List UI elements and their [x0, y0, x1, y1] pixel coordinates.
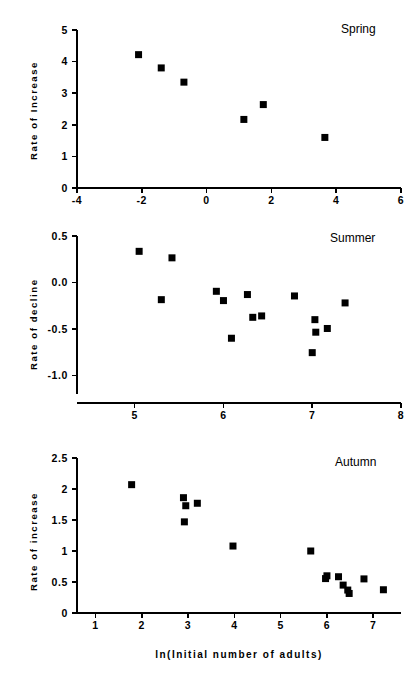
data-point	[309, 349, 316, 356]
svg-text:6: 6	[398, 194, 404, 206]
svg-text:0.5: 0.5	[52, 576, 68, 588]
svg-text:5: 5	[62, 24, 68, 36]
summer-x-ticks: 5678	[131, 403, 404, 421]
data-point	[180, 494, 187, 501]
data-point	[360, 575, 367, 582]
data-point	[311, 316, 318, 323]
svg-text:2: 2	[62, 119, 68, 131]
data-point	[229, 543, 236, 550]
spring-data-points	[135, 51, 328, 141]
data-point	[249, 314, 256, 321]
panel-summer: -1.0-0.50.00.5 5678 Rate of decline Summ…	[0, 218, 415, 433]
data-point	[228, 335, 235, 342]
spring-panel-label: Spring	[341, 22, 376, 36]
spring-axes	[77, 30, 401, 188]
svg-text:1.5: 1.5	[52, 514, 68, 526]
summer-y-axis-title: Rate of decline	[28, 278, 39, 370]
data-point	[182, 502, 189, 509]
data-point	[312, 329, 319, 336]
autumn-y-ticks: 00.511.522.5	[52, 452, 77, 619]
data-point	[335, 573, 342, 580]
spring-y-ticks: 012345	[62, 24, 77, 194]
svg-text:6: 6	[324, 619, 330, 631]
data-point	[168, 254, 175, 261]
panel-autumn: 00.511.522.5 1234567 Rate of increase Au…	[0, 433, 415, 673]
data-point	[180, 79, 187, 86]
svg-text:4: 4	[231, 619, 237, 631]
autumn-y-axis-title: Rate of increase	[28, 492, 39, 591]
svg-text:2: 2	[139, 619, 145, 631]
svg-text:4: 4	[62, 55, 68, 67]
x-axis-title: ln(Initial number of adults)	[77, 649, 401, 660]
svg-text:8: 8	[398, 409, 404, 421]
autumn-axes	[77, 458, 401, 613]
data-point	[258, 312, 265, 319]
data-point	[380, 586, 387, 593]
data-point	[321, 134, 328, 141]
autumn-plot-area: 00.511.522.5 1234567	[0, 433, 415, 673]
svg-text:0: 0	[62, 182, 68, 194]
autumn-panel-label: Autumn	[335, 455, 376, 469]
data-point	[135, 51, 142, 58]
svg-text:-4: -4	[72, 194, 83, 206]
svg-text:0.5: 0.5	[52, 230, 68, 242]
data-point	[194, 500, 201, 507]
svg-text:0: 0	[203, 194, 209, 206]
data-point	[181, 518, 188, 525]
svg-text:5: 5	[131, 409, 137, 421]
data-point	[240, 116, 247, 123]
svg-text:6: 6	[220, 409, 226, 421]
summer-y-ticks: -1.0-0.50.00.5	[48, 230, 78, 381]
svg-text:1: 1	[62, 150, 68, 162]
data-point	[342, 299, 349, 306]
svg-text:7: 7	[370, 619, 376, 631]
svg-text:4: 4	[333, 194, 339, 206]
svg-text:0: 0	[62, 607, 68, 619]
summer-axes	[77, 236, 401, 403]
svg-text:2: 2	[62, 483, 68, 495]
data-point	[346, 590, 353, 597]
svg-text:-2: -2	[137, 194, 148, 206]
svg-text:1: 1	[92, 619, 98, 631]
svg-text:1: 1	[62, 545, 68, 557]
data-point	[260, 101, 267, 108]
svg-text:-1.0: -1.0	[48, 369, 69, 381]
svg-text:3: 3	[62, 87, 68, 99]
data-point	[244, 291, 251, 298]
data-point	[324, 325, 331, 332]
autumn-x-ticks: 1234567	[92, 613, 376, 631]
data-point	[220, 297, 227, 304]
svg-text:5: 5	[277, 619, 283, 631]
data-point	[213, 288, 220, 295]
spring-x-ticks: -4-20246	[72, 188, 405, 206]
panel-spring: 012345 -4-20246 Rate of Increase Spring	[0, 0, 415, 218]
svg-text:3: 3	[185, 619, 191, 631]
svg-text:2.5: 2.5	[52, 452, 68, 464]
summer-plot-area: -1.0-0.50.00.5 5678	[0, 218, 415, 433]
data-point	[136, 248, 143, 255]
summer-data-points	[136, 248, 349, 356]
data-point	[158, 64, 165, 71]
svg-text:7: 7	[309, 409, 315, 421]
svg-text:-0.5: -0.5	[48, 323, 69, 335]
data-point	[291, 292, 298, 299]
data-point	[128, 481, 135, 488]
data-point	[323, 572, 330, 579]
svg-text:2: 2	[268, 194, 274, 206]
seasonal-scatter-figure: 012345 -4-20246 Rate of Increase Spring …	[0, 0, 415, 673]
spring-y-axis-title: Rate of Increase	[28, 61, 39, 160]
svg-text:0.0: 0.0	[52, 276, 68, 288]
summer-panel-label: Summer	[330, 231, 375, 245]
data-point	[307, 548, 314, 555]
data-point	[158, 296, 165, 303]
autumn-data-points	[128, 481, 387, 597]
